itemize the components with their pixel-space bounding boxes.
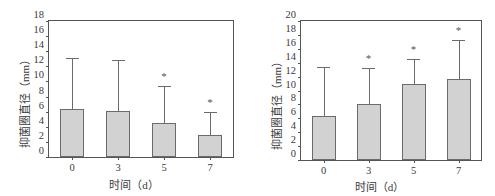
bar-right-3 — [357, 104, 381, 160]
error-bar-right-7 — [459, 41, 460, 79]
error-bar-left-0 — [72, 59, 73, 109]
error-bar-right-5 — [414, 60, 415, 84]
x-tick-label: 0 — [312, 165, 336, 176]
bar-right-7 — [447, 79, 471, 160]
plot-area-left: 024681012141618035*7* — [48, 20, 234, 158]
error-bar-left-7 — [210, 113, 211, 135]
y-tick-mark — [298, 160, 301, 161]
y-tick-mark — [298, 132, 301, 133]
error-bar-cap-right-3 — [362, 68, 375, 69]
significance-marker-right-5: * — [407, 44, 421, 55]
bar-left-7 — [198, 135, 222, 157]
y-tick-mark — [46, 66, 49, 67]
x-tick-label: 0 — [60, 162, 84, 173]
x-tick-label: 3 — [357, 165, 381, 176]
y-axis-title-left: 抑菌圈直径（mm） — [16, 54, 32, 148]
y-axis-title-right: 抑菌圈直径（mm） — [268, 56, 284, 150]
y-tick-mark — [46, 97, 49, 98]
error-bar-cap-left-5 — [158, 86, 171, 87]
error-bar-left-3 — [118, 61, 119, 110]
bar-left-5 — [152, 123, 176, 157]
figure-two-bar-charts: 抑菌圈直径（mm） 时间（d） 024681012141618035*7* 抑菌… — [0, 0, 495, 196]
error-bar-right-0 — [324, 68, 325, 116]
x-tick-label: 5 — [402, 165, 426, 176]
bar-left-3 — [106, 111, 130, 157]
x-tick-mark — [324, 160, 325, 163]
significance-marker-left-5: * — [157, 71, 171, 82]
significance-marker-right-7: * — [452, 25, 466, 36]
y-tick-mark — [298, 118, 301, 119]
x-tick-label: 5 — [152, 162, 176, 173]
error-bar-cap-left-3 — [112, 60, 125, 61]
y-tick-mark — [298, 146, 301, 147]
y-tick-mark — [46, 81, 49, 82]
y-tick-mark — [46, 21, 49, 22]
y-tick-mark — [46, 36, 49, 37]
x-tick-mark — [72, 157, 73, 160]
x-tick-mark — [369, 160, 370, 163]
x-axis-title-right: 时间（d） — [256, 178, 495, 194]
error-bar-cap-left-0 — [66, 58, 79, 59]
x-tick-label: 3 — [106, 162, 130, 173]
chart-panel-left: 抑菌圈直径（mm） 时间（d） 024681012141618035*7* — [0, 0, 248, 196]
error-bar-cap-left-7 — [204, 112, 217, 113]
error-bar-cap-right-5 — [407, 59, 420, 60]
y-tick-mark — [298, 35, 301, 36]
y-tick-mark — [46, 142, 49, 143]
error-bar-left-5 — [164, 87, 165, 123]
x-tick-mark — [210, 157, 211, 160]
plot-area-right: 0246810121416182003*5*7* — [300, 20, 482, 161]
x-axis-title-left: 时间（d） — [10, 176, 258, 192]
x-tick-mark — [164, 157, 165, 160]
x-tick-label: 7 — [198, 162, 222, 173]
y-tick-mark — [46, 127, 49, 128]
y-tick-mark — [298, 104, 301, 105]
bar-right-5 — [402, 84, 426, 160]
bar-left-0 — [60, 109, 84, 157]
x-tick-mark — [118, 157, 119, 160]
x-tick-mark — [459, 160, 460, 163]
error-bar-cap-right-7 — [452, 40, 465, 41]
y-tick-mark — [46, 112, 49, 113]
significance-marker-right-3: * — [362, 53, 376, 64]
error-bar-right-3 — [369, 69, 370, 104]
x-tick-mark — [414, 160, 415, 163]
y-tick-mark — [298, 91, 301, 92]
bar-right-0 — [312, 116, 336, 160]
x-tick-label: 7 — [447, 165, 471, 176]
y-tick-mark — [46, 51, 49, 52]
y-tick-mark — [298, 49, 301, 50]
error-bar-cap-right-0 — [317, 67, 330, 68]
y-tick-mark — [298, 21, 301, 22]
chart-panel-right: 抑菌圈直径（mm） 时间（d） 0246810121416182003*5*7* — [248, 0, 495, 196]
significance-marker-left-7: * — [203, 97, 217, 108]
y-tick-mark — [298, 63, 301, 64]
y-tick-mark — [298, 77, 301, 78]
y-tick-mark — [46, 157, 49, 158]
